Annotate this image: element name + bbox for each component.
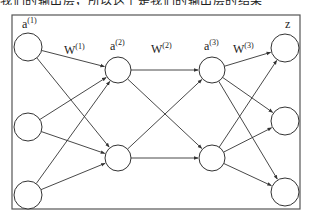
neuron-layer1-node1 (14, 33, 42, 61)
neuron-layer4-node2 (271, 107, 299, 135)
weight-label-3: W(3) (233, 41, 254, 56)
edge-l3n1-l4n3 (219, 81, 278, 179)
edge-l1n2-l2n1 (40, 77, 106, 119)
edge-l3n1-l4n1 (224, 52, 270, 66)
layer-label-2: a(2) (110, 38, 125, 53)
neuron-layer3-node1 (199, 57, 225, 83)
layer-label-1: a(1) (22, 16, 37, 31)
edge-l1n3-l2n1 (36, 81, 110, 183)
edge-l1n3-l2n2 (41, 163, 105, 189)
neuron-layer1-node2 (14, 113, 42, 141)
labels: a(1)a(2)a(3)zW(1)W(2)W(3) (22, 16, 290, 57)
neuron-layer2-node2 (105, 145, 131, 171)
neuron-layer3-node2 (199, 145, 225, 171)
edge-l3n1-l4n2 (223, 77, 273, 112)
layer-label-4: z (285, 17, 290, 31)
neurons (14, 33, 299, 209)
connections (36, 50, 277, 189)
neuron-layer1-node3 (14, 181, 42, 209)
edge-l3n2-l4n3 (224, 163, 272, 185)
neural-network-diagram: a(1)a(2)a(3)zW(1)W(2)W(3) (0, 0, 313, 220)
edge-l3n2-l4n1 (219, 60, 277, 147)
weight-label-1: W(1) (64, 42, 85, 57)
edge-l2n1-l3n2 (127, 79, 201, 149)
weight-label-2: W(2) (151, 41, 172, 56)
neuron-layer4-node1 (271, 34, 299, 62)
layer-label-3: a(3) (204, 38, 219, 53)
edge-l1n2-l2n2 (41, 132, 105, 154)
edge-l3n2-l4n2 (224, 128, 272, 152)
neuron-layer4-node3 (271, 178, 299, 206)
neuron-layer2-node1 (105, 57, 131, 83)
edge-l2n2-l3n1 (127, 80, 201, 150)
